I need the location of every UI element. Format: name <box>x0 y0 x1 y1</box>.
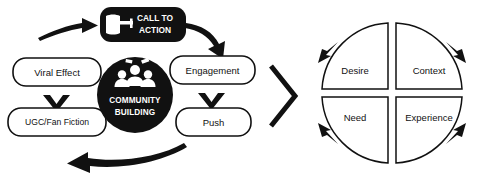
quadrant-experience-label: Experience <box>405 112 453 123</box>
chevron-right-connector <box>271 66 295 126</box>
call-to-action-line1: CALL TO <box>137 13 173 23</box>
community-building-line1: COMMUNITY <box>109 96 161 105</box>
node-engagement[interactable]: Engagement <box>170 56 255 84</box>
diagram-canvas: Viral Effect UGC/Fan Fiction Engagement … <box>0 0 481 186</box>
quadrant-context-label: Context <box>413 65 446 76</box>
node-push-label: Push <box>203 117 225 128</box>
node-engagement-label: Engagement <box>186 65 240 76</box>
call-to-action-badge[interactable]: CALL TO ACTION <box>100 7 186 42</box>
arrow-bottom-return <box>67 143 187 173</box>
quadrant-desire[interactable]: Desire <box>322 23 388 89</box>
arrow-cta-to-engagement <box>185 23 225 59</box>
quadrant-need-label: Need <box>344 112 367 123</box>
community-building-hub[interactable]: COMMUNITY BUILDING <box>97 57 173 133</box>
quadrant-context[interactable]: Context <box>396 23 462 89</box>
arrow-into-cta <box>38 18 98 41</box>
node-viral-effect[interactable]: Viral Effect <box>13 58 101 86</box>
node-ugc-fan-fiction[interactable]: UGC/Fan Fiction <box>8 108 106 136</box>
call-to-action-line2: ACTION <box>139 25 171 35</box>
diagram-svg: Viral Effect UGC/Fan Fiction Engagement … <box>0 0 481 186</box>
quadrant-desire-label: Desire <box>341 65 368 76</box>
node-push[interactable]: Push <box>176 108 251 136</box>
quadrant-experience[interactable]: Experience <box>396 97 462 163</box>
quadrant-need[interactable]: Need <box>322 97 388 163</box>
node-viral-effect-label: Viral Effect <box>34 67 80 78</box>
node-ugc-fan-fiction-label: UGC/Fan Fiction <box>25 117 89 127</box>
community-building-line2: BUILDING <box>115 108 155 117</box>
